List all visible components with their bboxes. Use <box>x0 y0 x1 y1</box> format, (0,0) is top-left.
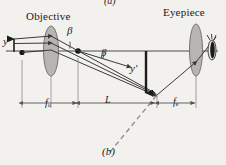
dashed-extension-ray <box>110 95 157 152</box>
panel-label-b: (b) <box>102 146 115 157</box>
fe-subscript: e <box>176 100 179 107</box>
fo-subscript: o <box>48 101 51 108</box>
objective-lens <box>44 26 59 76</box>
eyepiece-label: Eyepiece <box>163 7 205 18</box>
beta-angle-label-left: β <box>67 25 72 36</box>
focal-length-objective-label: fo <box>45 98 51 109</box>
optical-diagram-figure: Objective Eyepiece β β y y′ fo L fe (a) … <box>0 0 226 165</box>
angle-beta-left <box>70 42 71 49</box>
objective-label: Objective <box>26 11 71 22</box>
eyepiece-lens <box>190 24 203 76</box>
panel-label-a: (a) <box>104 0 116 6</box>
beta-angle-label-right: β <box>101 47 106 58</box>
object-height-label: y <box>3 36 8 47</box>
diagram-canvas <box>0 0 226 165</box>
focal-length-eyepiece-label: fe <box>173 97 179 108</box>
image-height-label: y′ <box>130 63 137 74</box>
tube-length-label: L <box>105 95 111 105</box>
ray-to-eye <box>157 37 216 95</box>
eye-icon <box>207 34 216 60</box>
